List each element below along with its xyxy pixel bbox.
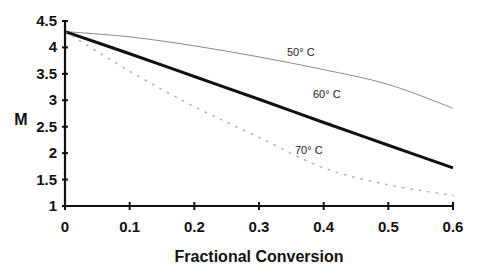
axes: 11.522.533.544.500.10.20.30.40.50.6 [36, 12, 463, 235]
x-tick-label: 0.2 [184, 218, 205, 235]
series-label: 50° C [287, 46, 315, 58]
x-tick-label: 0.4 [313, 218, 335, 235]
series-label: 70° C [295, 144, 323, 156]
y-tick-label: 3 [49, 91, 57, 108]
x-tick-label: 0.3 [249, 218, 270, 235]
series-label: 60° C [313, 88, 341, 100]
line-chart: 50° C60° C70° C 11.522.533.544.500.10.20… [0, 0, 482, 276]
series-line-70c [65, 32, 453, 196]
series-line-50c [65, 32, 453, 109]
y-tick-label: 2 [49, 144, 57, 161]
y-tick-label: 1 [49, 197, 57, 214]
y-tick-label: 4.5 [36, 12, 57, 29]
x-tick-label: 0.6 [443, 218, 464, 235]
x-tick-label: 0.1 [119, 218, 140, 235]
y-tick-label: 4 [49, 38, 58, 55]
y-tick-label: 3.5 [36, 65, 57, 82]
plot-area: 50° C60° C70° C [65, 32, 453, 196]
y-tick-label: 1.5 [36, 171, 57, 188]
x-tick-label: 0 [61, 218, 69, 235]
series-line-60c [65, 32, 453, 168]
y-axis-title: M [14, 111, 27, 128]
x-tick-label: 0.5 [378, 218, 399, 235]
y-tick-label: 2.5 [36, 118, 57, 135]
x-axis-title: Fractional Conversion [175, 248, 344, 265]
